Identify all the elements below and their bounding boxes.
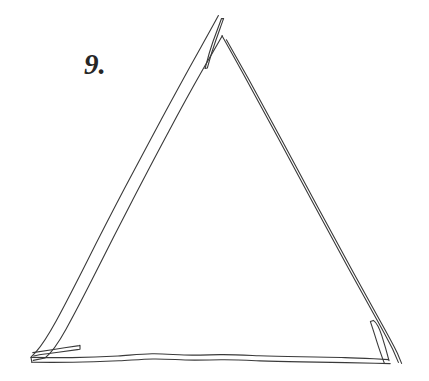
triangle-drawing bbox=[0, 0, 429, 381]
figure-number-label: 9. bbox=[84, 50, 106, 79]
figure-page: 9. bbox=[0, 0, 429, 381]
drawing-background bbox=[0, 0, 429, 381]
